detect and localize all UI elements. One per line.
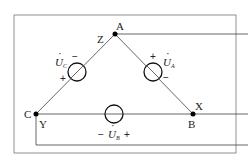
svg-text:·: ·: [58, 47, 62, 59]
svg-text:·: ·: [111, 119, 115, 131]
label-c: C: [24, 108, 31, 120]
uc-minus: −: [72, 51, 78, 62]
ub-minus: −: [98, 129, 104, 140]
uc-plus: +: [60, 73, 66, 84]
svg-text:·: ·: [166, 47, 170, 59]
label-b: B: [188, 118, 195, 130]
node-c: [34, 112, 39, 117]
ua-minus: −: [163, 72, 169, 83]
output-line-c: [36, 114, 248, 145]
label-y: Y: [39, 118, 47, 130]
node-b: [191, 112, 196, 117]
ua-plus: +: [150, 51, 156, 62]
delta-circuit-diagram: A Z C Y X B UC · − + UA · + − − UB · +: [0, 0, 248, 163]
label-x: X: [195, 100, 203, 112]
node-a: [113, 32, 118, 37]
label-a: A: [116, 20, 124, 32]
ub-plus: +: [124, 129, 130, 140]
label-z: Z: [97, 33, 104, 45]
